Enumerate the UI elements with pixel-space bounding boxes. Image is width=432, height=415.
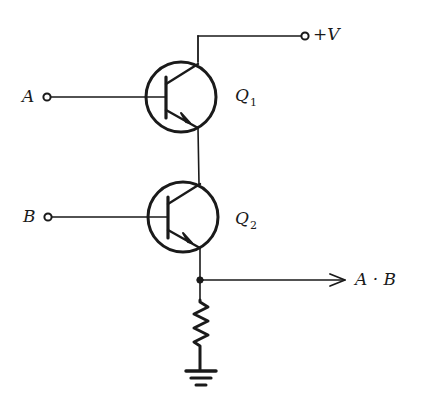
supply-wire — [198, 36, 301, 62]
input-b-label: B — [23, 208, 36, 225]
supply-label: +V — [313, 26, 340, 43]
q2-name: Q — [235, 208, 249, 228]
q2-subscript: 2 — [250, 219, 257, 232]
output-label: A · B — [355, 271, 396, 288]
input-a-label: A — [22, 88, 34, 105]
q1-label: Q1 — [235, 87, 257, 104]
supply-terminal-icon — [301, 32, 308, 39]
ground-icon — [186, 371, 216, 385]
q1-q2-wire — [198, 128, 199, 184]
circuit-diagram — [0, 0, 432, 415]
input-b-terminal-icon — [44, 213, 51, 220]
resistor-icon — [194, 300, 208, 370]
input-a-terminal-icon — [43, 93, 50, 100]
q1-subscript: 1 — [250, 96, 257, 109]
output-arrow-icon — [200, 274, 345, 286]
q1-name: Q — [235, 85, 249, 105]
q2-label: Q2 — [235, 210, 257, 227]
